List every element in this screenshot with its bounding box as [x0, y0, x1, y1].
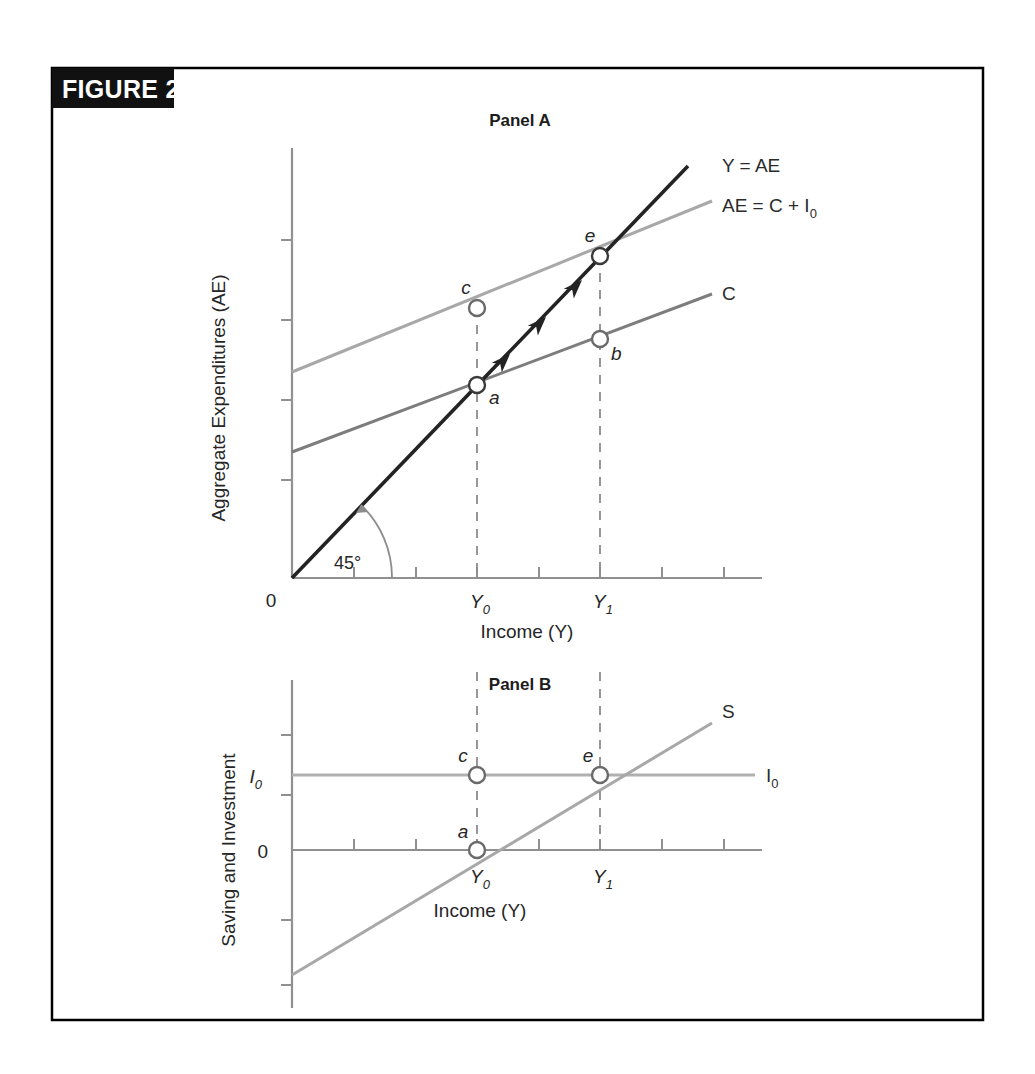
panel-a-label-c: C	[722, 283, 736, 304]
panel-b-label-i0-sub: 0	[771, 776, 778, 791]
panel-a-xtick-y0-sub: 0	[483, 602, 491, 617]
panel-a-y-axis-title: Aggregate Expenditures (AE)	[208, 274, 229, 521]
panel-b-ytick-zero: 0	[257, 841, 268, 862]
figure-title: FIGURE 2	[62, 75, 180, 103]
panel-a-point-b-label: b	[611, 343, 622, 364]
panel-a-xtick-y1-sub: 1	[606, 602, 613, 617]
panel-b-point-e[interactable]	[592, 767, 608, 783]
panel-b-label-s: S	[722, 701, 735, 722]
panel-a-point-e[interactable]	[592, 248, 608, 264]
panel-b-point-a[interactable]	[469, 842, 485, 858]
panel-a-x-axis-title: Income (Y)	[481, 621, 574, 642]
panel-a-label-ae-sub: 0	[810, 206, 817, 221]
panel-a-point-b[interactable]	[592, 331, 608, 347]
panel-b-xtick-y0-sub: 0	[483, 877, 491, 892]
panel-a-label-y-equals-ae: Y = AE	[722, 155, 780, 176]
panel-b-point-c-label: c	[458, 745, 468, 766]
panel-a-label-ae-main: AE = C + I	[722, 195, 810, 216]
panel-b-point-e-label: e	[583, 745, 594, 766]
panel-a-point-e-label: e	[585, 225, 596, 246]
panel-a-point-a-label: a	[489, 387, 500, 408]
panel-a-point-a[interactable]	[469, 377, 485, 393]
panel-b-x-axis-title: Income (Y)	[434, 900, 527, 921]
panel-a-angle-label: 45°	[334, 553, 361, 573]
panel-a-origin-label: 0	[266, 590, 277, 611]
panel-b-point-c[interactable]	[469, 767, 485, 783]
figure-svg: FIGURE 2 Panel A	[0, 0, 1035, 1074]
panel-a-title: Panel A	[489, 111, 551, 130]
panel-b-y-axis-title: Saving and Investment	[218, 753, 239, 947]
panel-a-point-c-label: c	[461, 277, 471, 298]
panel-b-xtick-y1-sub: 1	[606, 877, 613, 892]
panel-b-point-a-label: a	[458, 821, 469, 842]
panel-b-title: Panel B	[489, 675, 551, 694]
figure-container: FIGURE 2 Panel A	[0, 0, 1035, 1074]
panel-a-point-c[interactable]	[469, 300, 485, 316]
panel-b-ytick-i0-sub: 0	[255, 777, 263, 792]
